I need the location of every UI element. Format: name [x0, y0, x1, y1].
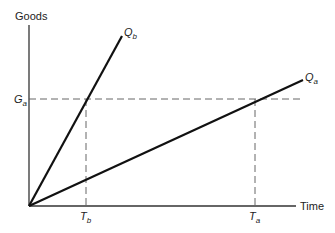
x-axis-label: Time — [300, 200, 324, 212]
qa-label: Qa — [305, 71, 319, 86]
qb-label: Qb — [124, 26, 138, 41]
ga-label: Ga — [14, 93, 28, 108]
qb-line — [29, 36, 122, 206]
production-diagram: Goods Time Qb Qa Ga Tb Ta — [0, 0, 335, 233]
ta-label: Ta — [249, 210, 261, 225]
y-axis-label: Goods — [15, 10, 48, 22]
tb-label: Tb — [80, 210, 92, 225]
